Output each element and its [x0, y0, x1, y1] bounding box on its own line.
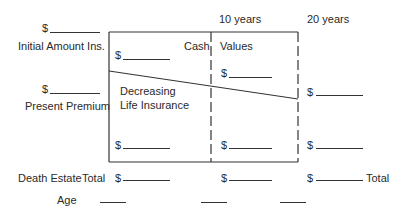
insurance-10-dollar: $ — [221, 139, 227, 151]
insurance-20-dollar: $ — [307, 86, 313, 98]
death-estate-10-dollar: $ — [221, 172, 227, 184]
header-10-years: 10 years — [219, 13, 261, 25]
present-premium-label: Present Premium — [25, 100, 110, 112]
total-right-label: Total — [366, 172, 389, 184]
cash-label: Cash — [184, 40, 210, 52]
age-start-blank[interactable] — [100, 202, 126, 203]
cash-value-start-dollar: $ — [115, 49, 121, 61]
initial-amount-dollar: $ — [42, 22, 48, 34]
age-20-blank[interactable] — [280, 202, 306, 203]
decreasing-label: Decreasing — [120, 85, 176, 97]
cash-value-10-blank[interactable] — [229, 77, 272, 78]
present-premium-dollar: $ — [42, 83, 48, 95]
values-label: Values — [220, 40, 253, 52]
age-10-blank[interactable] — [201, 202, 227, 203]
death-estate-label: Death Estate — [18, 172, 82, 184]
death-estate-20-blank[interactable] — [316, 180, 363, 181]
death-estate-start-blank[interactable] — [123, 180, 170, 181]
cash-value-20-dollar: $ — [307, 139, 313, 151]
initial-amount-label: Initial Amount Ins. — [18, 40, 105, 52]
insurance-start-dollar: $ — [115, 139, 121, 151]
total-left-label: Total — [82, 172, 105, 184]
cash-value-10-dollar: $ — [221, 67, 227, 79]
present-premium-blank[interactable] — [50, 93, 100, 94]
age-label: Age — [57, 194, 77, 206]
death-estate-20-dollar: $ — [307, 172, 313, 184]
insurance-start-blank[interactable] — [123, 148, 170, 149]
cash-value-start-blank[interactable] — [123, 59, 170, 60]
life-insurance-label: Life Insurance — [120, 99, 189, 111]
insurance-10-blank[interactable] — [229, 148, 272, 149]
header-20-years: 20 years — [307, 13, 349, 25]
death-estate-10-blank[interactable] — [229, 180, 272, 181]
death-estate-start-dollar: $ — [115, 172, 121, 184]
initial-amount-blank[interactable] — [50, 32, 100, 33]
cash-value-20-blank[interactable] — [316, 148, 363, 149]
insurance-20-blank[interactable] — [316, 95, 363, 96]
